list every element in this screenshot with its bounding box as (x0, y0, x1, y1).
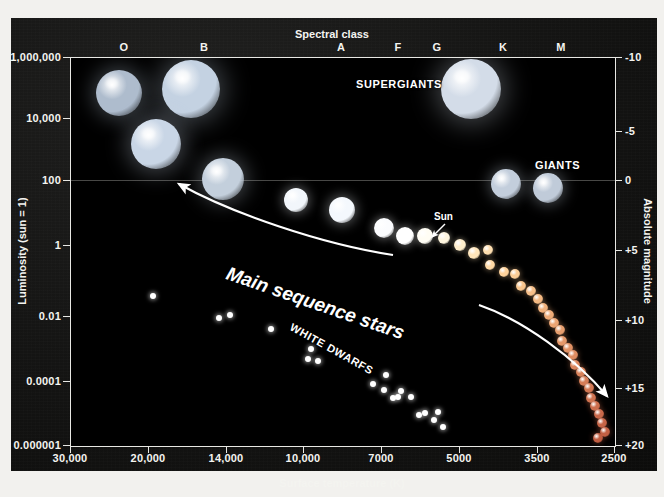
white-dwarf-star (381, 387, 387, 393)
absolute-magnitude-tickmark-5 (615, 388, 622, 389)
main-sequence-upper-arrow (179, 184, 393, 255)
surface-temperature-tickmark-3 (303, 446, 304, 453)
surface-temperature-tick-5: 5000 (446, 452, 471, 464)
plot-inner: SUPERGIANTS GIANTS Main sequence stars W… (71, 58, 615, 446)
white-dwarf-star (408, 394, 414, 400)
main-sequence-star (485, 260, 495, 270)
spectral-class-tick-B: B (200, 41, 208, 53)
giant-star (491, 169, 521, 199)
main-sequence-star (594, 409, 604, 419)
surface-temperature-tickmark-6 (537, 446, 538, 453)
white-dwarf-star (308, 346, 314, 352)
absolute-magnitude-tick-3: +5 (625, 244, 638, 256)
supergiant-star (96, 70, 142, 116)
surface-temperature-tick-6: 3500 (524, 452, 549, 464)
luminosity-tick-6: 0.000001 (14, 439, 61, 451)
main-sequence-star (586, 393, 596, 403)
main-sequence-star (499, 267, 509, 277)
region-label-giants: GIANTS (535, 159, 580, 171)
surface-temperature-tick-0: 30,000 (53, 452, 88, 464)
white-dwarf-star (150, 293, 156, 299)
white-dwarf-star (431, 417, 437, 423)
spectral-class-tick-O: O (120, 41, 129, 53)
main-sequence-star (593, 433, 603, 443)
surface-temperature-tick-1: 20,000 (131, 452, 166, 464)
main-sequence-star (526, 286, 536, 296)
luminosity-tick-4: 0.01 (39, 310, 61, 322)
main-sequence-star (584, 383, 594, 393)
annotation-arrows (71, 58, 615, 446)
main-sequence-star (374, 218, 394, 238)
supergiant-star (162, 60, 220, 118)
white-dwarf-star (305, 356, 311, 362)
sun-pointer-arrow (432, 224, 445, 237)
main-sequence-star (396, 227, 414, 245)
white-dwarf-star (422, 410, 428, 416)
region-label-supergiants: SUPERGIANTS (356, 78, 442, 90)
luminosity-tick-3: 1 (55, 239, 61, 251)
white-dwarf-star (315, 358, 321, 364)
luminosity-tickmark-5 (63, 381, 70, 382)
main-sequence-star (570, 360, 580, 370)
surface-temperature-tick-3: 10,000 (286, 452, 321, 464)
luminosity-tickmark-4 (63, 316, 70, 317)
main-sequence-star (576, 367, 586, 377)
surface-temperature-tickmark-2 (226, 446, 227, 453)
absolute-magnitude-tick-0: -10 (625, 51, 642, 63)
main-sequence-star (516, 281, 526, 291)
hr-diagram-figure: Spectral class OBAFGKM Luminosity (sun =… (0, 0, 664, 497)
surface-temperature-tickmark-1 (148, 446, 149, 453)
sun-label: Sun (434, 211, 453, 222)
main-sequence-star (590, 401, 600, 411)
surface-temperature-tickmark-0 (70, 446, 71, 453)
absolute-magnitude-tick-2: 0 (625, 174, 631, 186)
absolute-magnitude-axis-title: Absolute magnitude (642, 198, 654, 304)
surface-temperature-tickmark-4 (381, 446, 382, 453)
surface-temperature-tick-7: 2500 (601, 452, 626, 464)
white-dwarf-star (440, 424, 446, 430)
main-sequence-star (438, 232, 450, 244)
white-dwarf-star (383, 372, 389, 378)
luminosity-tickmark-0 (63, 57, 70, 58)
white-dwarf-star (216, 315, 222, 321)
absolute-magnitude-tickmark-6 (615, 445, 622, 446)
luminosity-tickmark-2 (63, 180, 70, 181)
white-dwarf-star (398, 388, 404, 394)
main-sequence-star (329, 197, 355, 223)
main-sequence-star (533, 294, 543, 304)
absolute-magnitude-tick-1: -5 (625, 125, 635, 137)
main-sequence-star (454, 239, 466, 251)
spectral-class-tick-K: K (499, 41, 507, 53)
main-sequence-lower-arrow (479, 305, 607, 396)
main-sequence-star (600, 427, 610, 437)
luminosity-tick-1: 10,000 (26, 112, 61, 124)
spectral-class-tick-A: A (337, 41, 345, 53)
gridline-luminosity-100 (71, 180, 615, 181)
main-sequence-star (468, 247, 480, 259)
main-sequence-star (597, 418, 607, 428)
spectral-class-tick-G: G (433, 41, 442, 53)
main-sequence-star (483, 245, 493, 255)
supergiant-star (202, 158, 244, 200)
white-dwarf-star (435, 409, 441, 415)
luminosity-tick-2: 100 (42, 174, 61, 186)
luminosity-tickmark-6 (63, 445, 70, 446)
supergiant-star (131, 119, 181, 169)
white-dwarf-star (370, 381, 376, 387)
absolute-magnitude-tick-5: +15 (625, 382, 644, 394)
plot-area[interactable]: SUPERGIANTS GIANTS Main sequence stars W… (70, 57, 616, 447)
absolute-magnitude-tickmark-2 (615, 180, 622, 181)
main-sequence-star (417, 228, 433, 244)
surface-temperature-tick-4: 7000 (368, 452, 393, 464)
luminosity-tickmark-1 (63, 118, 70, 119)
spectral-class-axis-title: Spectral class (295, 28, 369, 40)
main-sequence-star (568, 350, 578, 360)
supergiant-star (441, 59, 501, 119)
main-sequence-star (563, 343, 573, 353)
absolute-magnitude-tickmark-3 (615, 250, 622, 251)
surface-temperature-tickmark-7 (614, 446, 615, 453)
luminosity-tick-5: 0.0001 (26, 375, 61, 387)
main-sequence-star (579, 376, 589, 386)
spectral-class-tick-F: F (395, 41, 402, 53)
luminosity-tickmark-3 (63, 245, 70, 246)
